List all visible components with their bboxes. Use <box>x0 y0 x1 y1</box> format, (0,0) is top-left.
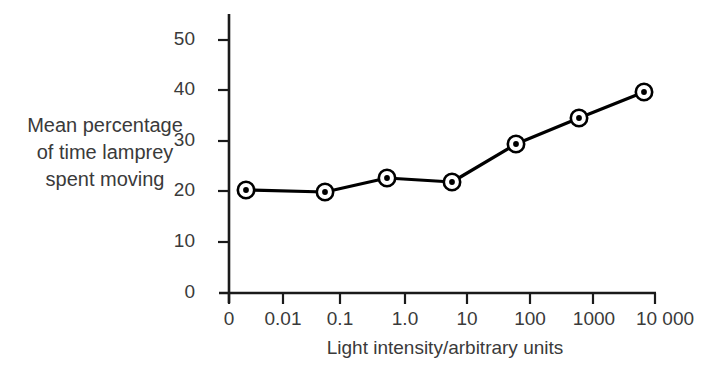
data-markers <box>238 84 652 200</box>
x-tick-marks <box>229 293 655 304</box>
data-point-marker <box>444 174 460 190</box>
data-point-marker <box>238 182 254 198</box>
data-point-marker <box>317 184 333 200</box>
data-point-marker <box>636 84 652 100</box>
chart-figure: Mean percentage of time lamprey spent mo… <box>0 0 703 388</box>
y-tick-marks <box>218 40 229 242</box>
data-point-marker <box>508 136 524 152</box>
data-point-marker <box>571 110 587 126</box>
plot-area <box>0 0 703 388</box>
data-point-marker <box>379 170 395 186</box>
